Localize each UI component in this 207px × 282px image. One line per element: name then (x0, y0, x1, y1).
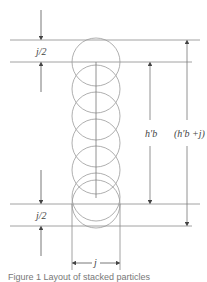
inner-height-label: h′b (145, 128, 157, 139)
outer-height-label: (h′b +j) (174, 128, 206, 140)
figure-caption: Figure 1 Layout of stacked particles (8, 272, 150, 282)
top-gap-label: j/2 (34, 46, 47, 57)
width-label: j (92, 257, 97, 268)
bottom-gap-label: j/2 (34, 210, 47, 221)
